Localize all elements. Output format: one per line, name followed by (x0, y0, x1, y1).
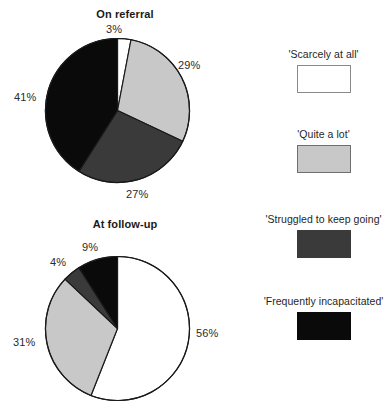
slice-label-referral-quite-a-lot: 29% (178, 59, 200, 71)
legend-swatch-struggled-to-keep-going (297, 230, 351, 258)
pie-chart-figure: On referral 3% 29% 27% 41% At follow-up … (0, 0, 392, 415)
pie-chart-on-referral (44, 37, 191, 184)
slice-label-referral-scarcely: 3% (106, 23, 122, 35)
pie-chart-at-follow-up (44, 255, 191, 402)
slice-label-followup-scarcely: 56% (196, 327, 218, 339)
legend-item-struggled-to-keep-going: 'Struggled to keep going' (255, 213, 392, 258)
chart-title-on-referral: On referral (0, 8, 250, 20)
slice-label-referral-struggled: 27% (126, 188, 148, 200)
chart-legend: 'Scarcely at all' 'Quite a lot' 'Struggl… (255, 0, 392, 415)
legend-item-quite-a-lot: 'Quite a lot' (255, 128, 392, 173)
legend-label-quite-a-lot: 'Quite a lot' (255, 128, 392, 140)
legend-label-struggled-to-keep-going: 'Struggled to keep going' (255, 213, 392, 225)
chart-title-at-follow-up: At follow-up (0, 218, 250, 230)
slice-label-followup-struggled: 4% (50, 256, 66, 268)
slice-label-referral-incapacitated: 41% (14, 91, 36, 103)
legend-swatch-quite-a-lot (297, 145, 351, 173)
legend-label-scarcely-at-all: 'Scarcely at all' (255, 48, 392, 60)
slice-label-followup-incapacitated: 9% (82, 241, 98, 253)
slice-label-followup-quite-a-lot: 31% (13, 336, 35, 348)
legend-item-scarcely-at-all: 'Scarcely at all' (255, 48, 392, 93)
legend-item-frequently-incapacitated: 'Frequently incapacitated' (255, 295, 392, 340)
legend-label-frequently-incapacitated: 'Frequently incapacitated' (255, 295, 392, 307)
legend-swatch-frequently-incapacitated (297, 312, 351, 340)
legend-swatch-scarcely-at-all (297, 65, 351, 93)
